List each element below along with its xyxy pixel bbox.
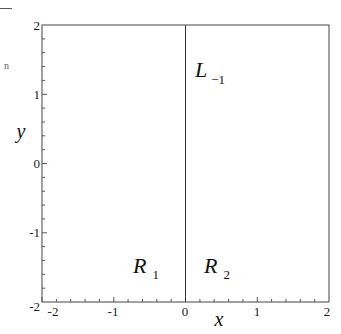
plot: 2 1 0 -1 -2 -2 -1 0 1 2 x y L−1 R1 R2 <box>0 0 341 334</box>
x-tick-1: 1 <box>254 304 261 319</box>
y-tick-neg2: -2 <box>29 299 40 314</box>
y-tick-0: 0 <box>34 156 41 171</box>
y-ticks <box>42 39 47 288</box>
x-tick-neg2: -2 <box>48 304 59 319</box>
x-tick-0: 0 <box>182 304 189 319</box>
y-axis-label: y <box>15 120 26 143</box>
label-L-minus-1: L−1 <box>194 57 225 87</box>
x-tick-neg1: -1 <box>108 304 119 319</box>
y-tick-2: 2 <box>34 18 41 33</box>
y-tick-1: 1 <box>34 87 41 102</box>
label-R2: R2 <box>203 253 230 282</box>
x-axis-label: x <box>214 308 224 330</box>
x-ticks <box>42 297 315 302</box>
x-tick-2: 2 <box>324 304 331 319</box>
y-tick-neg1: -1 <box>29 225 40 240</box>
label-R1: R1 <box>132 253 159 282</box>
